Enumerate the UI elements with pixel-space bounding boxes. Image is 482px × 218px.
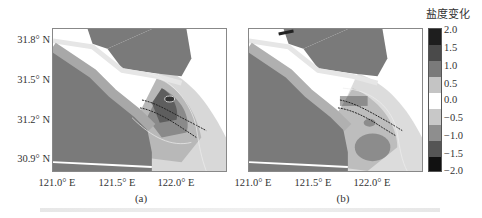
colorbar	[428, 28, 442, 172]
colorbar-title: 盐度变化	[426, 5, 470, 21]
y-tick: 31.2° N	[4, 114, 50, 126]
salinity-map-a	[53, 29, 226, 171]
x-tick: 121.0° E	[235, 177, 272, 189]
x-tick: 122.0° E	[354, 177, 391, 189]
x-tick: 121.5° E	[295, 177, 332, 189]
y-tick: 30.9° N	[4, 153, 50, 165]
colorbar-tick: −2.0	[444, 165, 463, 177]
map-panel-a	[52, 28, 227, 172]
x-tick: 121.5° E	[99, 177, 136, 189]
colorbar-tick: 1.5	[444, 42, 457, 54]
map-panel-b	[248, 28, 423, 172]
colorbar-tick: 2.0	[444, 24, 457, 36]
colorbar-tick: −1.0	[444, 130, 463, 142]
salinity-map-b	[249, 29, 422, 171]
x-tick: 122.0° E	[158, 177, 195, 189]
colorbar-tick: 0.0	[444, 94, 457, 106]
panel-label-b: (b)	[337, 192, 350, 204]
panel-label-a: (a)	[135, 192, 147, 204]
y-tick: 31.5° N	[4, 74, 50, 86]
colorbar-tick: −1.5	[444, 148, 463, 160]
caption-blur	[40, 208, 440, 212]
colorbar-tick: 0.5	[444, 78, 457, 90]
colorbar-tick: 1.0	[444, 60, 457, 72]
colorbar-tick: −0.5	[444, 112, 463, 124]
y-tick: 31.8° N	[4, 34, 50, 46]
x-tick: 121.0° E	[39, 177, 76, 189]
